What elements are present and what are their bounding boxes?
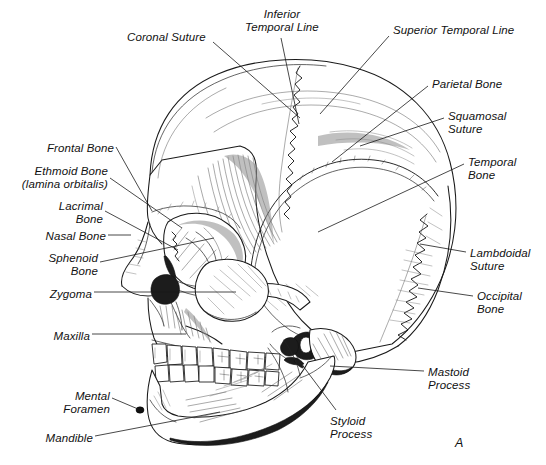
skull-anatomy-figure: Coronal Suture Inferior Temporal Line Su… [0, 0, 546, 465]
label-inferior-temporal-line: Inferior Temporal Line [230, 8, 334, 34]
frontal-bone-leader [116, 147, 152, 211]
label-temporal-bone: Temporal Bone [468, 156, 516, 182]
zygoma [195, 259, 268, 321]
panel-label: A [455, 436, 463, 450]
label-zygoma: Zygoma [0, 288, 92, 301]
mental-foramen [136, 407, 144, 413]
label-ethmoid-bone: Ethmoid Bone (lamina orbitalis) [0, 165, 108, 191]
label-lambdoidal-suture: Lambdoidal Suture [470, 247, 530, 273]
label-mastoid-process: Mastoid Process [428, 366, 470, 392]
label-superior-temporal-line: Superior Temporal Line [393, 24, 514, 37]
label-styloid-process: Styloid Process [330, 415, 372, 441]
label-coronal-suture: Coronal Suture [127, 31, 206, 44]
label-parietal-bone: Parietal Bone [432, 78, 502, 91]
label-sphenoid-bone: Sphenoid Bone [0, 252, 98, 278]
ethmoid-bone-leader [110, 178, 182, 228]
label-frontal-bone: Frontal Bone [0, 142, 114, 155]
label-lacrimal-bone: Lacrimal Bone [0, 200, 103, 226]
label-nasal-bone: Nasal Bone [0, 230, 106, 243]
label-occipital-bone: Occipital Bone [477, 290, 522, 316]
label-maxilla: Maxilla [0, 330, 90, 343]
label-mental-foramen: Mental Foramen [0, 390, 110, 416]
label-mandible: Mandible [0, 432, 93, 445]
mental-foramen-leader [112, 398, 138, 409]
label-squamosal-suture: Squamosal Suture [448, 110, 506, 136]
